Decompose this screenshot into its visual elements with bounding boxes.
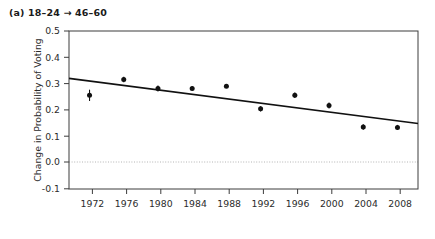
figure-panel: (a) 18–24 → 46–60 0.5 0.4 0.3 0.2 0.1 0.… [0, 0, 435, 239]
y-tick-label: 0.2 [45, 104, 60, 115]
x-tick-label: 1984 [183, 198, 207, 209]
y-tick-label: 0.5 [45, 25, 60, 36]
x-tick-label: 1992 [252, 198, 276, 209]
marker-dot [292, 93, 297, 98]
y-tick-label: -0.1 [42, 183, 60, 194]
marker-dot [361, 124, 366, 129]
x-axis-ticks [92, 189, 400, 194]
data-point [395, 125, 400, 130]
marker-dot [327, 103, 332, 108]
marker-dot [87, 93, 92, 98]
marker-dot [190, 86, 195, 91]
x-tick-label: 2000 [320, 198, 344, 209]
y-tick-label: 0.0 [45, 156, 60, 167]
data-point [224, 84, 229, 89]
x-tick-label: 1996 [286, 198, 310, 209]
x-tick-label: 1972 [81, 198, 105, 209]
marker-dot [224, 84, 229, 89]
y-axis-ticks [64, 31, 69, 189]
y-axis-title: Change in Probability of Voting [32, 38, 43, 181]
y-tick-label: 0.1 [45, 131, 60, 142]
plot-background [69, 31, 418, 189]
y-tick-label: 0.4 [45, 52, 60, 63]
x-tick-label: 1976 [115, 198, 139, 209]
x-tick-label: 1988 [217, 198, 241, 209]
x-tick-label: 2008 [388, 198, 412, 209]
marker-dot [395, 125, 400, 130]
data-point [190, 86, 195, 91]
scatter-chart: 0.5 0.4 0.3 0.2 0.1 0.0 -0.1 Change in P… [0, 0, 435, 239]
x-tick-label: 2004 [354, 198, 378, 209]
x-tick-label: 1980 [149, 198, 173, 209]
y-tick-label: 0.3 [45, 78, 60, 89]
marker-dot [155, 86, 160, 91]
marker-dot [258, 106, 263, 111]
marker-dot [121, 77, 126, 82]
